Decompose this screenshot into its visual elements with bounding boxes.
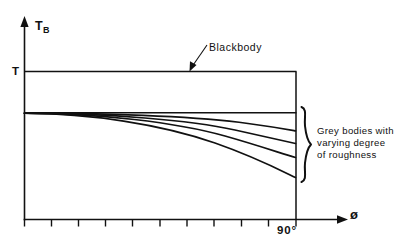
x-axis-arrowhead (337, 215, 348, 223)
y-axis-arrowhead (20, 16, 28, 27)
annotation-blackbody: Blackbody (209, 41, 262, 53)
annotation-grey-bodies-line-3: of roughness (317, 149, 413, 161)
x-axis-label-phi: ø (350, 207, 358, 222)
y-axis-tick-label-T: T (12, 65, 19, 77)
annotation-grey-bodies-line-2: varying degree (317, 137, 413, 149)
x-axis-group (25, 215, 349, 223)
y-axis-label: TB (35, 19, 50, 35)
blackbody-pointer-line (193, 45, 208, 66)
grey-body-curves (25, 113, 296, 177)
annotation-grey-bodies: Grey bodies with varying degree of rough… (317, 125, 413, 162)
grey-bodies-curly-brace (302, 107, 312, 182)
grey-bodies-brace (302, 107, 312, 182)
blackbody-pointer (190, 45, 208, 72)
x-axis-tick-label-90deg: 90° (277, 224, 297, 236)
x-axis-ticks (25, 220, 297, 227)
annotation-grey-bodies-line-1: Grey bodies with (317, 125, 413, 137)
brightness-temperature-diagram: TB T ø 90° Blackbody Grey bodies with va… (0, 0, 413, 248)
y-axis-label-text: T (35, 19, 43, 33)
y-axis-group (20, 16, 28, 220)
y-axis-label-subscript: B (43, 25, 50, 35)
blackbody-pointer-arrowhead (190, 61, 197, 71)
